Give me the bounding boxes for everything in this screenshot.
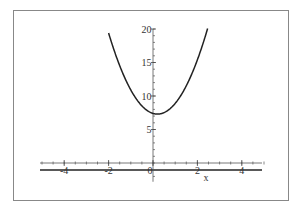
y-tick-label: 15 [142, 57, 152, 68]
x-tick-label: -2 [104, 165, 112, 176]
parabola-chart: 5101520-4-2024x [0, 0, 297, 213]
y-tick-label: 10 [142, 91, 152, 102]
x-tick-label: -4 [60, 165, 68, 176]
x-tick-label: 4 [239, 165, 244, 176]
y-tick-label: 20 [142, 24, 152, 35]
y-tick-label: 5 [147, 124, 152, 135]
x-tick-label: 2 [195, 165, 200, 176]
parabola-curve [109, 29, 208, 115]
x-tick-label: 0 [148, 165, 153, 176]
x-axis-label: x [204, 172, 209, 183]
